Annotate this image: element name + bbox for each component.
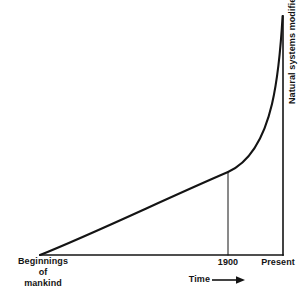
chart-plot-area — [0, 0, 307, 300]
x-axis-origin-label: Beginnings of mankind — [4, 256, 82, 289]
origin-label-line-1: Beginnings — [4, 256, 82, 267]
origin-label-line-3: mankind — [4, 278, 82, 289]
x-axis-title: Time — [114, 274, 210, 285]
growth-curve — [40, 16, 283, 255]
arrow-right-icon — [212, 274, 246, 286]
x-axis-tick-1900: 1900 — [208, 257, 248, 268]
chart-figure: Beginnings of mankind 1900 Present Time … — [0, 0, 307, 300]
x-axis-tick-present: Present — [256, 257, 300, 268]
y-axis-title: Natural systems modified — [287, 0, 298, 104]
origin-label-line-2: of — [4, 267, 82, 278]
